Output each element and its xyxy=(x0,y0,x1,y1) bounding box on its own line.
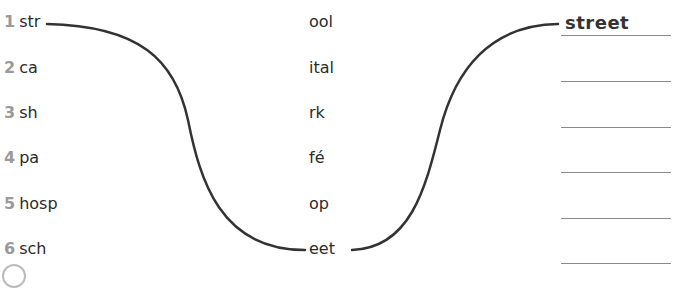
middle-item-6: eet xyxy=(309,239,335,259)
word-fragment: sh xyxy=(19,103,37,122)
item-number: 5 xyxy=(4,194,15,213)
answer-line-1[interactable] xyxy=(561,35,671,36)
word-fragment: str xyxy=(19,12,40,31)
answer-line-4[interactable] xyxy=(561,172,671,173)
middle-item-5: op xyxy=(309,194,329,214)
left-item-2: 2ca xyxy=(4,58,38,78)
left-item-3: 3sh xyxy=(4,103,38,123)
partial-circle-icon xyxy=(2,264,26,288)
item-number: 3 xyxy=(4,103,15,122)
middle-item-3: rk xyxy=(309,103,325,123)
left-item-4: 4pa xyxy=(4,148,39,168)
item-number: 1 xyxy=(4,12,15,31)
middle-item-4: fé xyxy=(309,148,324,168)
left-item-5: 5hosp xyxy=(4,194,58,214)
word-fragment: pa xyxy=(19,148,39,167)
match-line-eet-street xyxy=(352,24,558,250)
item-number: 6 xyxy=(4,239,15,258)
item-number: 2 xyxy=(4,58,15,77)
middle-item-2: ital xyxy=(309,58,334,78)
match-line-str-eet xyxy=(47,24,305,250)
answer-line-2[interactable] xyxy=(561,81,671,82)
answer-line-3[interactable] xyxy=(561,127,671,128)
left-item-1: 1str xyxy=(4,12,40,32)
word-fragment: ca xyxy=(19,58,38,77)
answer-1[interactable]: street xyxy=(565,12,629,33)
left-item-6: 6sch xyxy=(4,239,46,259)
middle-item-1: ool xyxy=(309,12,333,32)
answer-line-5[interactable] xyxy=(561,218,671,219)
item-number: 4 xyxy=(4,148,15,167)
answer-line-6[interactable] xyxy=(561,263,671,264)
word-fragment: hosp xyxy=(19,194,57,213)
word-fragment: sch xyxy=(19,239,46,258)
